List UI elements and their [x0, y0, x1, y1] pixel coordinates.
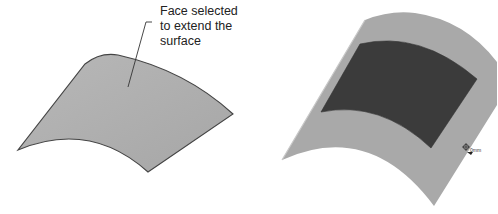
callout-text: Face selected to extend the surface: [160, 4, 238, 49]
callout-line-1: Face selected: [160, 4, 238, 19]
cursor-distance-label: 0mm: [470, 147, 481, 153]
callout-line-2: to extend the: [160, 19, 238, 34]
callout-line-3: surface: [160, 34, 238, 49]
original-surface: [18, 54, 233, 172]
diagram-canvas: 0mm: [0, 0, 498, 214]
